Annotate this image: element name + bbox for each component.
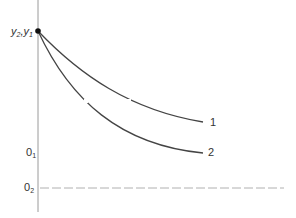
curve-1-gap bbox=[126, 99, 131, 103]
curve-2-gap bbox=[84, 99, 88, 103]
label-y2-y1: y2,y1 bbox=[11, 26, 33, 38]
label-01: 01 bbox=[26, 147, 36, 159]
curve-2-label: 2 bbox=[208, 147, 214, 158]
start-point-dot bbox=[35, 28, 41, 34]
curve-2 bbox=[38, 31, 203, 153]
curve-1 bbox=[38, 31, 203, 122]
curve-1-label: 1 bbox=[210, 117, 216, 128]
diagram-canvas bbox=[0, 0, 296, 218]
label-02: 02 bbox=[24, 182, 34, 194]
